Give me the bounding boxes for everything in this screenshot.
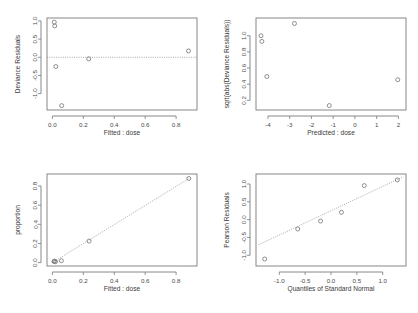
data-point <box>265 75 269 79</box>
residuals-vs-fitted-svg: 0.00.20.40.60.8 -1.0-0.50.00.51.0 Fitted… <box>0 0 209 156</box>
plot-frame <box>47 18 197 110</box>
x-axis-title: Fitted : dose <box>104 129 141 136</box>
identity-reference-line <box>52 178 190 263</box>
x-tick-label: 2 <box>397 121 401 128</box>
reference-line-group <box>52 178 190 263</box>
x-tick-label: 0.0 <box>48 121 57 128</box>
reference-line-group <box>259 177 404 245</box>
x-axis-title: Fitted : dose <box>104 285 141 292</box>
y-tick-label: 0.6 <box>32 200 39 209</box>
y-tick-label: 1.0 <box>241 179 248 188</box>
x-tick-label: -1.0 <box>274 277 285 284</box>
plot-region <box>256 18 406 110</box>
data-point <box>186 49 190 53</box>
y-tick-label: -1.0 <box>32 88 39 99</box>
panel-observed-vs-fitted: 0.00.20.40.60.8 0.00.20.40.60.8 Fitted :… <box>0 156 209 312</box>
y-tick-label: 0.0 <box>32 258 39 267</box>
data-point <box>263 257 267 261</box>
x-tick-label: 0.4 <box>110 121 119 128</box>
data-point <box>319 219 323 223</box>
x-axis: -1.0-0.50.00.51.0 <box>274 272 388 284</box>
x-tick-label: 0 <box>353 121 357 128</box>
panel-residuals-vs-fitted: 0.00.20.40.60.8 -1.0-0.50.00.51.0 Fitted… <box>0 0 209 156</box>
x-tick-label: -2 <box>309 121 315 128</box>
x-tick-label: -0.5 <box>300 277 311 284</box>
data-point <box>60 104 64 108</box>
y-tick-label: -0.5 <box>241 232 248 243</box>
x-tick-label: 0.2 <box>79 121 88 128</box>
y-tick-label: 0.2 <box>241 95 248 104</box>
observed-vs-fitted-svg: 0.00.20.40.60.8 0.00.20.40.60.8 Fitted :… <box>0 156 209 312</box>
y-axis-title: Deviance Residuals <box>14 34 21 93</box>
x-axis: -4-3-2-1012 <box>265 116 400 128</box>
data-point <box>362 184 366 188</box>
data-point <box>339 210 343 214</box>
data-points <box>263 178 400 261</box>
y-tick-label: -0.5 <box>32 70 39 81</box>
plot-region <box>47 174 197 266</box>
data-point <box>59 259 63 263</box>
plot-frame <box>256 18 406 110</box>
x-tick-label: 0.2 <box>79 277 88 284</box>
y-axis-title: Pearson Residuals <box>223 192 230 248</box>
plot-region <box>256 174 406 266</box>
y-axis: -1.0-0.50.00.51.0 <box>241 179 251 261</box>
data-point <box>292 21 296 25</box>
data-point <box>296 227 300 231</box>
y-tick-label: 0.5 <box>241 197 248 206</box>
y-tick-label: 0.0 <box>32 52 39 61</box>
y-axis: -1.0-0.50.00.51.0 <box>32 16 42 99</box>
y-tick-label: 1.0 <box>241 31 248 40</box>
data-point <box>54 65 58 69</box>
x-tick-label: 0.0 <box>48 277 57 284</box>
data-points <box>52 20 190 107</box>
data-point <box>53 24 57 28</box>
x-tick-label: 0.6 <box>141 121 150 128</box>
qq-reference-line <box>259 177 404 245</box>
data-point <box>87 57 91 61</box>
x-tick-label: 0.8 <box>172 121 181 128</box>
plot-frame <box>256 174 406 266</box>
x-axis-title: Predicted : dose <box>307 129 355 136</box>
diagnostic-plot-figure: 0.00.20.40.60.8 -1.0-0.50.00.51.0 Fitted… <box>0 0 418 313</box>
y-tick-label: 0.6 <box>241 63 248 72</box>
y-tick-label: -1.0 <box>241 249 248 260</box>
y-tick-label: 0.8 <box>241 47 248 56</box>
data-point <box>52 20 56 24</box>
x-axis: 0.00.20.40.60.8 <box>48 272 181 284</box>
x-tick-label: -1 <box>330 121 336 128</box>
data-point <box>327 104 331 108</box>
y-axis-title: proportion <box>14 205 22 235</box>
y-tick-label: 0.8 <box>32 181 39 190</box>
x-tick-label: 0.8 <box>172 277 181 284</box>
x-tick-label: -4 <box>265 121 271 128</box>
x-tick-label: 0.5 <box>353 277 362 284</box>
x-tick-label: 0.4 <box>110 277 119 284</box>
y-tick-label: 1.0 <box>32 16 39 25</box>
x-axis: 0.00.20.40.60.8 <box>48 116 181 128</box>
x-tick-label: 0.6 <box>141 277 150 284</box>
y-tick-label: 0.5 <box>32 34 39 43</box>
y-axis: 0.00.20.40.60.8 <box>32 181 42 267</box>
data-points <box>259 21 400 107</box>
normal-qq-svg: -1.0-0.50.00.51.0 -1.0-0.50.00.51.0 Quan… <box>209 156 418 312</box>
y-tick-label: 0.4 <box>32 219 39 228</box>
data-point <box>260 39 264 43</box>
y-axis: 0.20.40.60.81.0 <box>241 31 251 105</box>
panel-normal-qq: -1.0-0.50.00.51.0 -1.0-0.50.00.51.0 Quan… <box>209 156 418 312</box>
data-point <box>396 78 400 82</box>
panel-scale-location: -4-3-2-1012 0.20.40.60.81.0 Predicted : … <box>209 0 418 156</box>
y-tick-label: 0.0 <box>241 215 248 224</box>
x-tick-label: 1 <box>375 121 379 128</box>
y-tick-label: 0.4 <box>241 79 248 88</box>
x-tick-label: -3 <box>287 121 293 128</box>
x-axis-title: Quantiles of Standard Normal <box>288 285 375 293</box>
y-axis-title: sqrt(abs(Deviance Residuals)) <box>223 20 231 109</box>
plot-region <box>47 18 197 110</box>
x-tick-label: 1.0 <box>378 277 387 284</box>
y-tick-label: 0.2 <box>32 239 39 248</box>
x-tick-label: 0.0 <box>327 277 336 284</box>
data-point <box>259 34 263 38</box>
scale-location-svg: -4-3-2-1012 0.20.40.60.81.0 Predicted : … <box>209 0 418 156</box>
